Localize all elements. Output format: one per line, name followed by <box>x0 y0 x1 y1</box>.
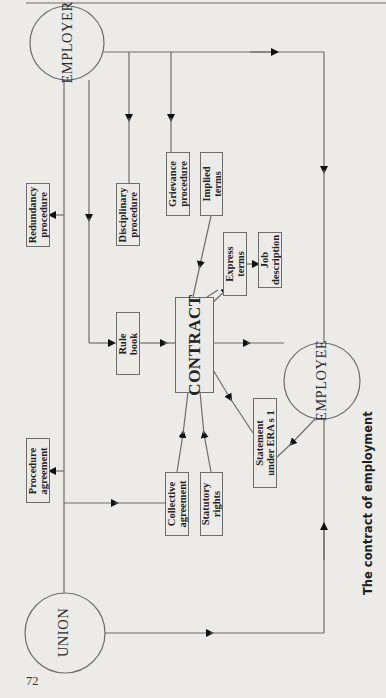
disciplinary-procedure-box: Disciplinary procedure <box>116 183 140 246</box>
collective-agreement-label: Collective agreement <box>166 480 188 527</box>
job-description-box: Job description <box>258 232 282 288</box>
rule-book-label: Rule book <box>117 332 139 354</box>
contract-box: CONTRACT <box>175 297 214 393</box>
employer-label: EMPLOYER <box>59 1 76 83</box>
statutory-rights-label: Statutory rights <box>201 483 223 526</box>
collective-agreement-box: Collective agreement <box>165 472 189 536</box>
procedure-agreement-label: Procedure agreement <box>27 447 49 494</box>
page-number: 72 <box>26 674 39 689</box>
grievance-procedure-box: Grievance procedure <box>166 152 190 216</box>
disciplinary-procedure-label: Disciplinary procedure <box>117 187 139 242</box>
procedure-agreement-box: Procedure agreement <box>26 438 50 503</box>
rule-book-box: Rule book <box>116 312 140 375</box>
implied-terms-label: Implied terms <box>201 166 223 201</box>
redundancy-procedure-box: Redundancy procedure <box>26 183 50 247</box>
grievance-procedure-label: Grievance procedure <box>167 161 189 207</box>
union-label: UNION <box>55 608 72 657</box>
express-terms-box: Express terms <box>223 232 247 296</box>
job-description-label: Job description <box>259 235 281 285</box>
redundancy-procedure-label: Redundancy procedure <box>27 187 49 244</box>
employee-label: EMPLOYEE <box>313 340 330 421</box>
implied-terms-box: Implied terms <box>200 152 223 216</box>
express-terms-label: Express terms <box>224 246 246 281</box>
statement-under-era-label: Statement under ERA s 1 <box>254 410 276 475</box>
running-title: The contract of employment <box>361 411 375 595</box>
statement-under-era-box: Statement under ERA s 1 <box>253 398 277 488</box>
statutory-rights-box: Statutory rights <box>200 472 223 536</box>
contract-label: CONTRACT <box>186 294 204 395</box>
